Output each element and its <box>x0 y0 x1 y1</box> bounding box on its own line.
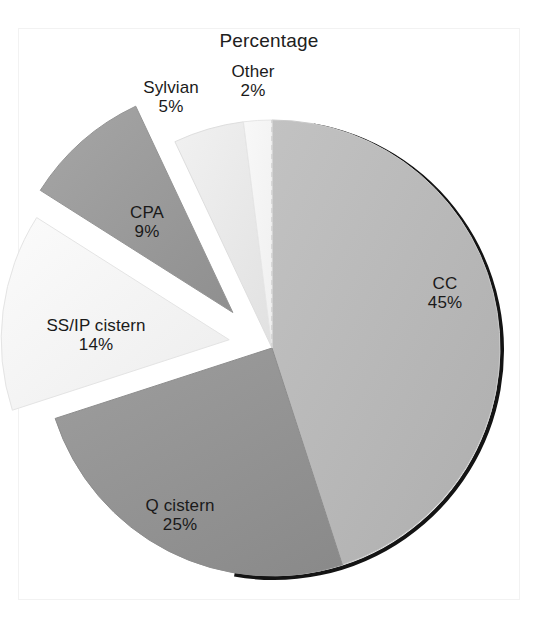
slice-label-ss-ip-cistern-percent: 14% <box>16 335 176 354</box>
slice-label-cc: CC 45% <box>400 274 490 312</box>
slice-label-cpa: CPA 9% <box>92 203 202 241</box>
slice-label-cpa-name: CPA <box>130 203 164 222</box>
slice-label-ss-ip-cistern-name: SS/IP cistern <box>46 316 145 335</box>
slice-label-other-name: Other <box>231 62 274 81</box>
slice-label-cc-percent: 45% <box>400 293 490 312</box>
slice-label-cpa-percent: 9% <box>92 222 202 241</box>
pie-chart-figure: Percentage <box>0 0 538 628</box>
slice-label-ss-ip-cistern: SS/IP cistern 14% <box>16 316 176 354</box>
slice-label-cc-name: CC <box>433 274 458 293</box>
slice-label-q-cistern-name: Q cistern <box>146 496 215 515</box>
slice-label-q-cistern-percent: 25% <box>100 515 260 534</box>
slice-label-sylvian-percent: 5% <box>116 97 226 116</box>
slice-label-sylvian-name: Sylvian <box>143 78 199 97</box>
slice-label-q-cistern: Q cistern 25% <box>100 496 260 534</box>
slice-label-sylvian: Sylvian 5% <box>116 78 226 116</box>
